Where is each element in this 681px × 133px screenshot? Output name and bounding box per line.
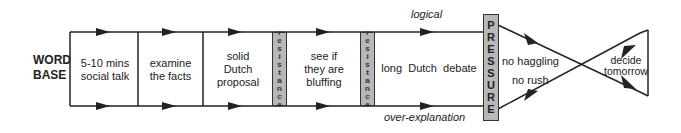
word-base-label: WORD BASE bbox=[33, 53, 71, 83]
resistance-bar-1: resistance bbox=[272, 32, 287, 106]
stage-long-debate: long Dutch debate bbox=[376, 62, 482, 75]
pressure-bar: PRESSURE bbox=[483, 14, 499, 121]
stage-dutch-proposal: solidDutchproposal bbox=[205, 50, 271, 89]
outcome-decide-tomorrow: decidetomorrow bbox=[604, 55, 648, 77]
no-haggling-label: no haggling bbox=[502, 55, 559, 68]
stage-check-bluffing: see ifthey arebluffing bbox=[288, 50, 360, 89]
resistance-bar-2: resistance bbox=[360, 32, 375, 106]
no-rush-label: no rush bbox=[512, 74, 549, 87]
stage-examine-facts: examinethe facts bbox=[138, 57, 203, 83]
logical-path-label: logical bbox=[411, 8, 442, 20]
stage-social-talk: 5-10 minssocial talk bbox=[72, 57, 138, 83]
over-explanation-path-label: over-explanation bbox=[384, 111, 465, 123]
